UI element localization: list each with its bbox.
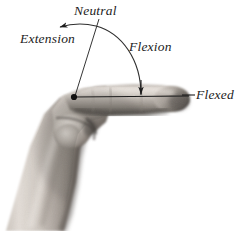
label-extension: Extension	[20, 32, 75, 46]
label-flexion: Flexion	[129, 40, 172, 54]
hand-rom-figure: Neutral Extension Flexion Flexed	[0, 0, 237, 231]
label-neutral: Neutral	[74, 4, 117, 18]
label-flexed: Flexed	[196, 88, 234, 102]
